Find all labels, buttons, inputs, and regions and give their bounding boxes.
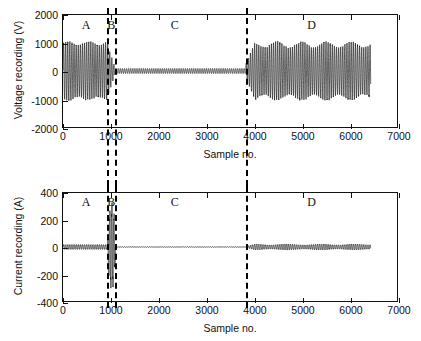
current-x-tick-label: 0 [60, 305, 66, 316]
voltage-x-tick [303, 124, 304, 129]
current-y-tick-label: -200 [37, 270, 58, 281]
current-x-tick [399, 298, 400, 303]
current-waveform [63, 193, 397, 301]
current-region-label-b: B [107, 196, 115, 208]
voltage-y-tick-label: 1000 [35, 38, 58, 49]
current-x-tick-top [255, 193, 256, 198]
voltage-x-tick [63, 124, 64, 129]
current-x-tick [63, 298, 64, 303]
voltage-y-tick [63, 72, 68, 73]
current-y-tick [63, 221, 68, 222]
current-x-tick [111, 298, 112, 303]
voltage-x-tick-label: 3000 [195, 131, 218, 142]
voltage-x-tick [207, 124, 208, 129]
current-x-tick-top [399, 193, 400, 198]
voltage-x-tick-top [399, 15, 400, 20]
current-trace [63, 203, 371, 289]
current-y-axis-title: Current recording (A) [12, 186, 24, 306]
voltage-y-tick-label: 0 [52, 67, 58, 78]
voltage-x-tick-top [255, 15, 256, 20]
current-waveform-clip [63, 193, 397, 301]
current-x-tick-label: 1000 [99, 305, 122, 316]
current-x-tick-top [159, 193, 160, 198]
current-y-tick-label: 200 [40, 215, 58, 226]
voltage-x-axis-title: Sample no. [203, 148, 256, 160]
voltage-x-tick-label: 5000 [291, 131, 314, 142]
figure-root: Voltage recording (V) -2000-100001000200… [0, 0, 421, 341]
current-x-axis-title: Sample no. [203, 322, 256, 334]
voltage-x-tick-label: 0 [60, 131, 66, 142]
current-x-tick-label: 7000 [387, 305, 410, 316]
current-x-tick-top [207, 193, 208, 198]
voltage-x-tick-top [159, 15, 160, 20]
voltage-x-tick [399, 124, 400, 129]
region-divider [246, 186, 248, 308]
current-region-label-a: A [82, 196, 91, 208]
current-x-tick-top [63, 193, 64, 198]
voltage-y-tick-label: 2000 [35, 10, 58, 21]
current-x-tick-label: 2000 [147, 305, 170, 316]
region-divider [107, 8, 109, 186]
voltage-x-tick-top [63, 15, 64, 20]
current-y-tick [63, 248, 68, 249]
voltage-panel: Voltage recording (V) -2000-100001000200… [0, 0, 421, 170]
voltage-region-label-a: A [82, 19, 91, 31]
voltage-x-tick-top [303, 15, 304, 20]
current-y-tick-label: 0 [52, 243, 58, 254]
voltage-x-tick-label: 1000 [99, 131, 122, 142]
current-region-label-c: C [171, 196, 179, 208]
voltage-x-tick [159, 124, 160, 129]
voltage-region-label-c: C [171, 19, 179, 31]
voltage-y-axis-title: Voltage recording (V) [12, 10, 24, 130]
current-x-tick-top [303, 193, 304, 198]
voltage-x-tick [255, 124, 256, 129]
voltage-y-tick-label: -2000 [31, 124, 58, 135]
voltage-region-label-b: B [107, 19, 115, 31]
current-x-tick [159, 298, 160, 303]
current-x-tick-label: 3000 [195, 305, 218, 316]
current-x-tick-label: 5000 [291, 305, 314, 316]
current-x-tick-top [351, 193, 352, 198]
voltage-y-tick [63, 44, 68, 45]
current-region-label-d: D [307, 196, 316, 208]
voltage-region-label-d: D [307, 19, 316, 31]
voltage-x-tick-label: 6000 [339, 131, 362, 142]
voltage-x-tick [351, 124, 352, 129]
current-x-tick [255, 298, 256, 303]
current-x-tick-label: 6000 [339, 305, 362, 316]
voltage-x-tick-top [207, 15, 208, 20]
voltage-y-tick-label: -1000 [31, 95, 58, 106]
voltage-trace [63, 41, 371, 101]
current-y-tick-label: -400 [37, 298, 58, 309]
current-x-tick [351, 298, 352, 303]
voltage-y-tick [63, 101, 68, 102]
region-divider [115, 8, 117, 186]
region-divider [246, 8, 248, 186]
current-x-tick [207, 298, 208, 303]
current-panel: Current recording (A) -400-2000200400010… [0, 170, 421, 341]
current-y-tick-label: 400 [40, 188, 58, 199]
voltage-x-tick-top [351, 15, 352, 20]
voltage-x-tick [111, 124, 112, 129]
voltage-x-tick-label: 2000 [147, 131, 170, 142]
current-x-tick [303, 298, 304, 303]
current-y-tick [63, 276, 68, 277]
voltage-x-tick-label: 7000 [387, 131, 410, 142]
